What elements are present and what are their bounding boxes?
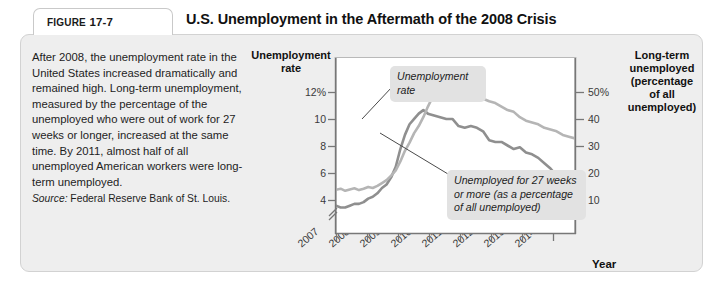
y-tick-4: 4 [286, 194, 326, 206]
figure-description: After 2008, the unemployment rate in the… [32, 50, 246, 206]
figure-tab-label: FIGURE 17-7 [47, 16, 113, 28]
figure-page: FIGURE 17-7 U.S. Unemployment in the Aft… [0, 0, 723, 306]
callout-leader-unemployment [362, 87, 392, 119]
y2-axis-title: Long-termunemployed(percentageof allunem… [612, 49, 712, 114]
callout-leader-longterm [380, 133, 448, 174]
y2-tick-20: 20 [588, 167, 628, 179]
figure-label-prefix: FIGURE [47, 17, 86, 28]
source-text: Federal Reserve Bank of St. Louis. [68, 193, 231, 204]
y2-tick-10: 10 [588, 194, 628, 206]
y-tick-12: 12% [286, 86, 326, 98]
y-tick-6: 6 [286, 167, 326, 179]
y2-tick-40: 40 [588, 113, 628, 125]
callout-long-term-unemployed: Unemployed for 27 weeks or more (as a pe… [447, 170, 586, 220]
callout-unemployment-rate: Unemployment rate [390, 66, 486, 102]
x-axis-title: Year [592, 258, 616, 270]
y-tick-8: 8 [286, 140, 326, 152]
y-tick-10: 10 [286, 113, 326, 125]
figure-title: U.S. Unemployment in the Aftermath of th… [186, 11, 556, 27]
y-axis-title: Unemploymentrate [248, 49, 334, 75]
description-body: After 2008, the unemployment rate in the… [32, 51, 242, 188]
figure-tab: FIGURE 17-7 [33, 8, 173, 35]
y2-tick-30: 30 [588, 140, 628, 152]
figure-source: Source: Federal Reserve Bank of St. Loui… [32, 192, 246, 206]
source-label: Source: [32, 193, 68, 204]
y2-tick-50: 50% [588, 86, 628, 98]
figure-number: 17-7 [89, 16, 113, 28]
